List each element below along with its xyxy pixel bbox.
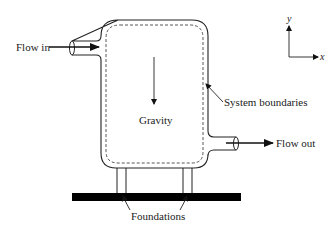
inlet-pipe-end	[70, 41, 75, 55]
foundations-label: Foundations	[131, 210, 185, 222]
system-boundaries-label: System boundaries	[224, 96, 307, 108]
ground-bar	[72, 193, 241, 201]
flow-in-label: Flow in	[16, 41, 50, 53]
coordinate-axes: y x	[286, 13, 325, 62]
control-volume-diagram: Flow in Flow out Gravity System boundari…	[0, 0, 329, 232]
y-axis-label: y	[286, 13, 292, 24]
gravity-label: Gravity	[139, 114, 173, 126]
foundation-right	[183, 168, 192, 193]
system-boundary	[106, 25, 203, 163]
x-axis-label: x	[319, 51, 325, 62]
flow-out-label: Flow out	[276, 137, 315, 149]
foundation-left	[117, 168, 126, 193]
